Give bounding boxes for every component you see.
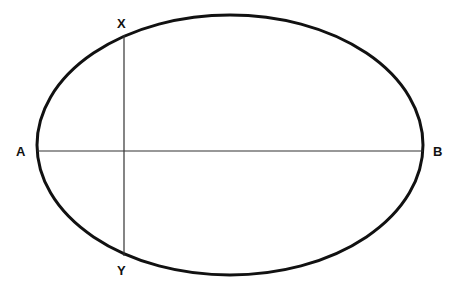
label-x: X — [117, 16, 126, 31]
ellipse-outline — [37, 15, 423, 275]
label-b: B — [433, 144, 442, 159]
label-y: Y — [117, 263, 126, 278]
label-a: A — [16, 144, 26, 159]
ellipse-diagram: A B X Y — [0, 0, 463, 293]
